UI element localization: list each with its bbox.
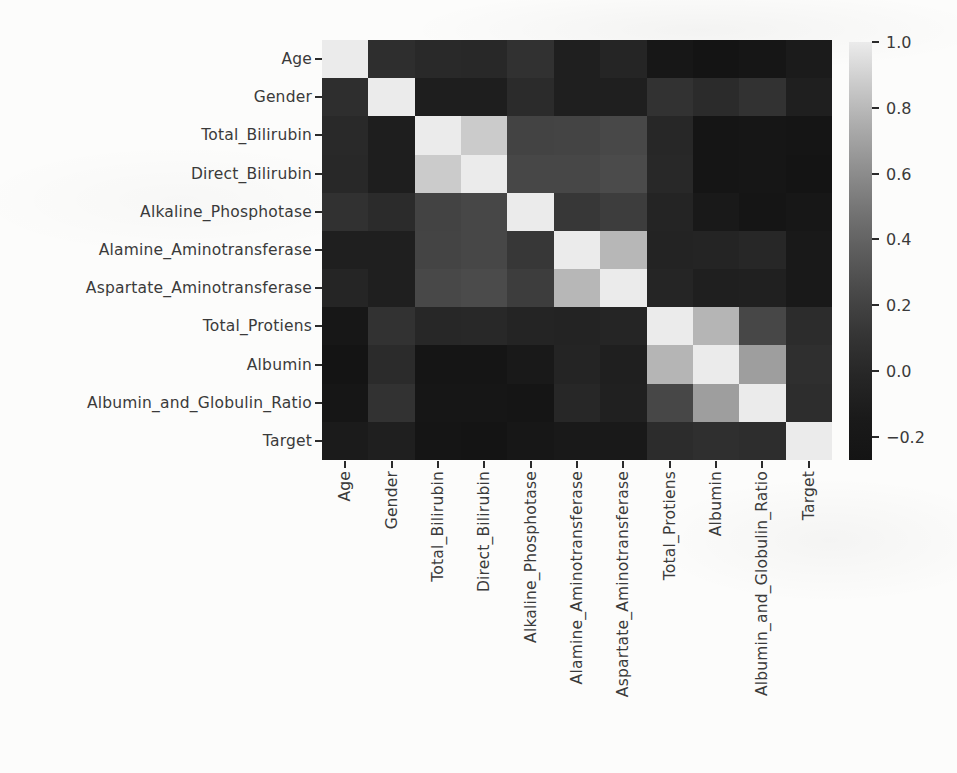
- heatmap-cell: [322, 40, 368, 78]
- colorbar-tick-label: 0.8: [886, 98, 911, 117]
- heatmap-cell: [739, 193, 785, 231]
- x-axis-label: Albumin_and_Globulin_Ratio: [753, 471, 771, 696]
- heatmap-cell: [647, 155, 693, 193]
- heatmap-cell: [507, 384, 553, 422]
- y-axis-tick: [315, 58, 322, 60]
- heatmap-cell: [368, 116, 414, 154]
- heatmap-cell: [461, 78, 507, 116]
- heatmap-cell: [786, 269, 832, 307]
- x-axis-tick: [483, 461, 485, 468]
- heatmap-cell: [507, 422, 553, 460]
- heatmap-cell: [368, 78, 414, 116]
- x-axis-tick: [622, 461, 624, 468]
- x-axis-tick: [391, 461, 393, 468]
- y-axis-label: Aspartate_Aminotransferase: [86, 279, 312, 297]
- heatmap-cell: [415, 307, 461, 345]
- heatmap-cell: [368, 384, 414, 422]
- heatmap-cell: [600, 78, 646, 116]
- heatmap-cell: [647, 40, 693, 78]
- y-axis-tick: [315, 325, 322, 327]
- y-axis-label: Total_Protiens: [203, 317, 312, 335]
- heatmap-cell: [554, 307, 600, 345]
- colorbar-tick: [872, 107, 879, 109]
- heatmap-cell: [368, 422, 414, 460]
- x-axis-label: Alamine_Aminotransferase: [568, 471, 586, 684]
- heatmap-cell: [739, 269, 785, 307]
- heatmap-cell: [415, 422, 461, 460]
- heatmap-cell: [647, 193, 693, 231]
- x-axis-tick: [715, 461, 717, 468]
- heatmap-cell: [647, 231, 693, 269]
- x-axis-tick: [669, 461, 671, 468]
- heatmap-cell: [461, 384, 507, 422]
- heatmap-cell: [322, 116, 368, 154]
- heatmap-cell: [461, 40, 507, 78]
- heatmap-cell: [693, 307, 739, 345]
- y-axis-tick: [315, 134, 322, 136]
- x-axis-label: Aspartate_Aminotransferase: [614, 471, 632, 697]
- y-axis-label: Total_Bilirubin: [201, 126, 312, 144]
- heatmap-cell: [600, 307, 646, 345]
- heatmap-cell: [600, 422, 646, 460]
- heatmap-cell: [507, 40, 553, 78]
- heatmap-cell: [322, 384, 368, 422]
- x-axis-label: Albumin: [707, 471, 725, 536]
- x-axis-label: Total_Protiens: [661, 471, 679, 580]
- heatmap-cell: [693, 345, 739, 383]
- heatmap-cell: [507, 155, 553, 193]
- heatmap-cell: [739, 116, 785, 154]
- heatmap-cell: [600, 345, 646, 383]
- heatmap-cell: [693, 116, 739, 154]
- heatmap-cell: [507, 231, 553, 269]
- heatmap-cell: [461, 269, 507, 307]
- heatmap-cell: [507, 345, 553, 383]
- heatmap-cell: [554, 384, 600, 422]
- x-axis-tick: [808, 461, 810, 468]
- heatmap-cell: [415, 155, 461, 193]
- y-axis-label: Target: [263, 432, 312, 450]
- heatmap-grid: [322, 40, 832, 460]
- heatmap-cell: [693, 384, 739, 422]
- heatmap-cell: [461, 231, 507, 269]
- heatmap-cell: [786, 422, 832, 460]
- heatmap-cell: [600, 231, 646, 269]
- heatmap-cell: [322, 269, 368, 307]
- heatmap-cell: [600, 269, 646, 307]
- heatmap-cell: [507, 193, 553, 231]
- heatmap-cell: [368, 155, 414, 193]
- y-axis-label: Age: [281, 50, 312, 68]
- heatmap-cell: [415, 40, 461, 78]
- y-axis-label: Direct_Bilirubin: [191, 165, 312, 183]
- heatmap-cell: [600, 155, 646, 193]
- colorbar-tick-label: 1.0: [886, 33, 911, 52]
- heatmap-cell: [461, 345, 507, 383]
- x-axis-tick: [344, 461, 346, 468]
- y-axis-tick: [315, 402, 322, 404]
- heatmap-cell: [647, 307, 693, 345]
- heatmap-cell: [786, 155, 832, 193]
- heatmap-cell: [554, 422, 600, 460]
- heatmap-cell: [507, 116, 553, 154]
- heatmap-cell: [368, 345, 414, 383]
- heatmap-cell: [554, 269, 600, 307]
- colorbar-tick: [872, 304, 879, 306]
- heatmap-cell: [647, 345, 693, 383]
- heatmap-cell: [368, 231, 414, 269]
- heatmap-cell: [322, 422, 368, 460]
- heatmap-cell: [693, 40, 739, 78]
- heatmap-cell: [322, 345, 368, 383]
- heatmap-cell: [415, 269, 461, 307]
- heatmap-cell: [554, 193, 600, 231]
- heatmap-cell: [368, 269, 414, 307]
- heatmap-cell: [415, 231, 461, 269]
- heatmap-cell: [507, 269, 553, 307]
- colorbar-tick-label: 0.0: [886, 362, 911, 381]
- heatmap-cell: [554, 40, 600, 78]
- heatmap-cell: [693, 193, 739, 231]
- heatmap-cell: [786, 345, 832, 383]
- colorbar-tick: [872, 41, 879, 43]
- y-axis-label: Alkaline_Phosphotase: [140, 203, 312, 221]
- y-axis-tick: [315, 364, 322, 366]
- heatmap-cell: [461, 193, 507, 231]
- y-axis-tick: [315, 249, 322, 251]
